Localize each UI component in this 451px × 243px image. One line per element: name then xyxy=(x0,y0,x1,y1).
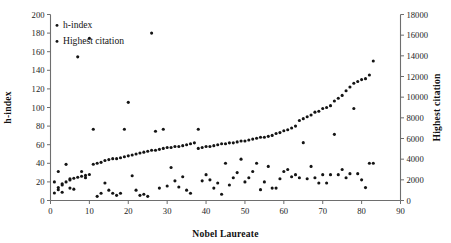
data-point xyxy=(368,162,371,165)
y-axis-right-tick-label: 2000 xyxy=(407,175,424,185)
data-point xyxy=(325,181,328,184)
data-point xyxy=(267,135,270,138)
data-point xyxy=(142,151,145,154)
data-point xyxy=(92,163,95,166)
y-axis-left-tick-label: 40 xyxy=(36,158,45,168)
data-point xyxy=(364,186,367,189)
data-point xyxy=(306,177,309,180)
data-point xyxy=(368,73,371,76)
data-point xyxy=(84,176,87,179)
data-point xyxy=(197,147,200,150)
data-point xyxy=(251,170,254,173)
data-point xyxy=(173,179,176,182)
y-axis-right-tick-label: 0 xyxy=(407,196,411,206)
y-axis-left-tick-label: 100 xyxy=(32,103,45,113)
data-point xyxy=(278,177,281,180)
data-point xyxy=(154,130,157,133)
data-point xyxy=(205,173,208,176)
data-point xyxy=(115,157,118,160)
data-point xyxy=(310,165,313,168)
data-point xyxy=(271,187,274,190)
data-point xyxy=(333,99,336,102)
data-point xyxy=(263,136,266,139)
data-point xyxy=(306,115,309,118)
x-axis-tick-label: 60 xyxy=(280,206,289,216)
data-point xyxy=(232,176,235,179)
data-point xyxy=(352,107,355,110)
data-point xyxy=(170,146,173,149)
data-point xyxy=(275,132,278,135)
data-point xyxy=(65,163,68,166)
data-point xyxy=(189,192,192,195)
x-axis-tick-label: 50 xyxy=(241,206,250,216)
data-point xyxy=(96,162,99,165)
data-point xyxy=(329,173,332,176)
data-point xyxy=(216,143,219,146)
y-axis-left-tick-label: 200 xyxy=(32,10,45,20)
data-point xyxy=(255,162,258,165)
scatter-plot: 0204060801001201401601802000200040006000… xyxy=(0,0,451,243)
data-point xyxy=(100,192,103,195)
data-point xyxy=(282,129,285,132)
data-point xyxy=(290,175,293,178)
data-point xyxy=(356,80,359,83)
data-point xyxy=(138,194,141,197)
data-point xyxy=(240,158,243,161)
x-axis-tick-label: 40 xyxy=(202,206,211,216)
data-point xyxy=(53,192,56,195)
data-point xyxy=(150,149,153,152)
data-point xyxy=(255,137,258,140)
data-point xyxy=(267,165,270,168)
data-point xyxy=(251,138,254,141)
data-point xyxy=(123,128,126,131)
data-point xyxy=(72,177,75,180)
data-point xyxy=(57,188,60,191)
data-point xyxy=(158,148,161,151)
y-axis-right-tick-label: 6000 xyxy=(407,134,424,144)
data-point xyxy=(142,193,145,196)
data-point xyxy=(271,134,274,137)
y-axis-right-tick-label: 16000 xyxy=(407,30,428,40)
data-point xyxy=(68,187,71,190)
y-axis-right-tick-label: 8000 xyxy=(407,113,424,123)
data-point xyxy=(224,142,227,145)
legend-marker xyxy=(56,40,59,43)
data-point xyxy=(193,141,196,144)
data-point xyxy=(286,168,289,171)
data-point xyxy=(341,168,344,171)
data-point xyxy=(317,110,320,113)
data-point xyxy=(61,191,64,194)
chart-figure: 0204060801001201401601802000200040006000… xyxy=(0,0,451,243)
data-point xyxy=(208,178,211,181)
data-point xyxy=(294,125,297,128)
data-point xyxy=(181,144,184,147)
y-axis-left-tick-label: 180 xyxy=(32,28,45,38)
data-point xyxy=(154,149,157,152)
data-point xyxy=(53,180,56,183)
data-point xyxy=(313,111,316,114)
data-point xyxy=(337,97,340,100)
y-axis-left-tick-label: 120 xyxy=(32,84,45,94)
data-point xyxy=(286,128,289,131)
data-point xyxy=(216,181,219,184)
data-point xyxy=(57,170,60,173)
data-point xyxy=(220,193,223,196)
data-point xyxy=(197,128,200,131)
y-axis-left-tick-label: 20 xyxy=(36,177,45,187)
y-axis-left-tick-label: 80 xyxy=(36,121,45,131)
data-point xyxy=(356,172,359,175)
data-point xyxy=(189,142,192,145)
data-point xyxy=(166,184,169,187)
data-point xyxy=(247,176,250,179)
data-point xyxy=(232,141,235,144)
data-point xyxy=(146,150,149,153)
data-point xyxy=(263,180,266,183)
y-axis-left-tick-label: 60 xyxy=(36,140,45,150)
data-point xyxy=(372,162,375,165)
data-point xyxy=(275,187,278,190)
data-point xyxy=(92,128,95,131)
data-point xyxy=(236,171,239,174)
data-point xyxy=(131,174,134,177)
data-point xyxy=(212,187,215,190)
data-point xyxy=(76,176,79,179)
